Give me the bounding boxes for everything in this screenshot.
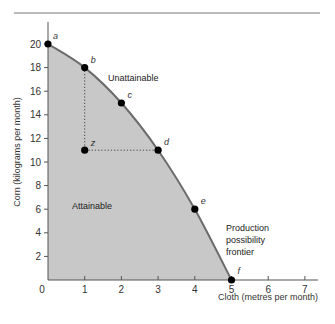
point-label-z: z	[90, 138, 96, 148]
y-tick-label: 18	[30, 62, 42, 73]
x-tick-label: 4	[192, 284, 198, 295]
y-tick-label: 16	[30, 86, 42, 97]
point-b	[81, 64, 88, 71]
ppf-chart: 2468101214161820 01234567 abcdefz Corn (…	[0, 0, 335, 324]
y-tick-label: 20	[30, 39, 42, 50]
y-tick-label: 6	[35, 204, 41, 215]
y-tick-label: 4	[35, 227, 41, 238]
point-c	[118, 99, 125, 106]
x-axis-title: Cloth (metres per month)	[218, 292, 318, 302]
point-e	[191, 206, 198, 213]
point-label-e: e	[201, 196, 206, 206]
point-label-b: b	[91, 55, 96, 65]
y-tick-label: 10	[30, 157, 42, 168]
point-f	[228, 276, 235, 283]
x-tick-label: 2	[119, 284, 125, 295]
attainable-label: Attainable	[72, 201, 112, 211]
point-z	[81, 147, 88, 154]
y-tick-label: 2	[35, 251, 41, 262]
point-label-c: c	[127, 90, 132, 100]
point-a	[44, 40, 51, 47]
point-label-d: d	[164, 137, 170, 147]
ppf-label-line2: possibility	[226, 235, 266, 245]
unattainable-label: Unattainable	[108, 73, 159, 83]
y-tick-label: 12	[30, 133, 42, 144]
ppf-label-line3: frontier	[226, 247, 254, 257]
x-tick-label: 0	[39, 284, 45, 295]
point-label-a: a	[53, 31, 58, 41]
point-d	[155, 147, 162, 154]
y-axis-title: Corn (kilograms per month)	[12, 97, 22, 207]
y-tick-label: 8	[35, 180, 41, 191]
y-tick-label: 14	[30, 109, 42, 120]
x-tick-label: 1	[82, 284, 88, 295]
ppf-label-line1: Production	[226, 223, 269, 233]
x-tick-label: 3	[155, 284, 161, 295]
y-axis-ticks: 2468101214161820	[30, 39, 48, 262]
point-label-f: f	[238, 266, 242, 276]
